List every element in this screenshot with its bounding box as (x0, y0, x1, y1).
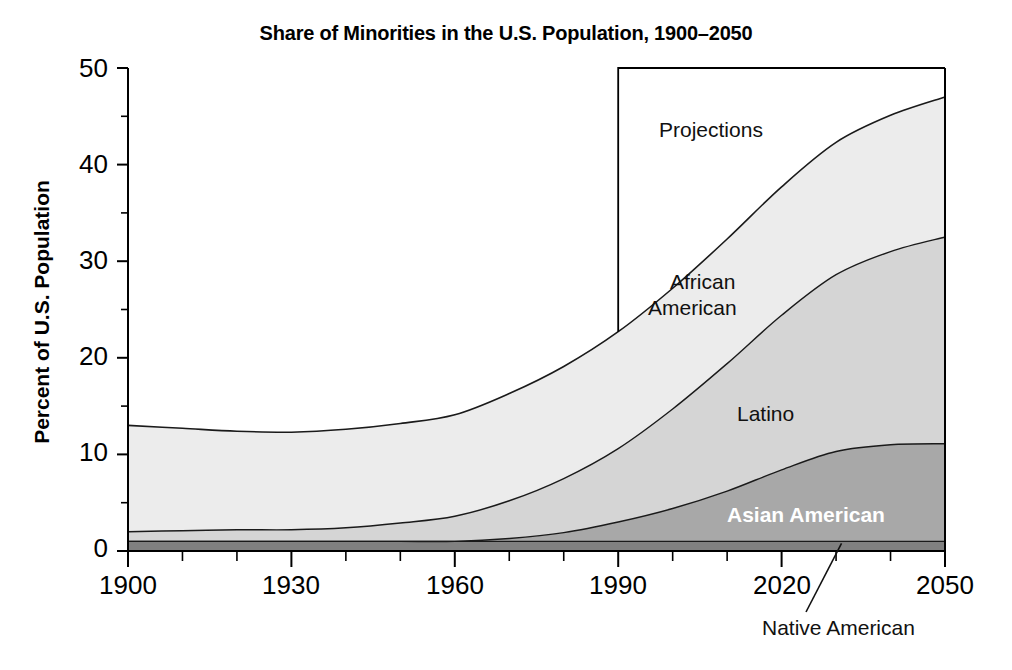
callout-label-native-american: Native American (762, 616, 915, 640)
chart-container: Share of Minorities in the U.S. Populati… (0, 0, 1012, 670)
area-label-african-american-line1: African (670, 270, 735, 294)
stacked-area-bands (128, 97, 945, 551)
leader-line-native-american (806, 543, 842, 612)
area-label-asian-american: Asian American (727, 503, 885, 527)
area-label-projections: Projections (659, 118, 763, 142)
area-label-african-american-line2: American (648, 296, 737, 320)
plot-area (0, 0, 1012, 670)
native-american-leader-line (806, 543, 842, 612)
area-band-native-american (128, 541, 945, 551)
area-label-latino: Latino (737, 402, 794, 426)
